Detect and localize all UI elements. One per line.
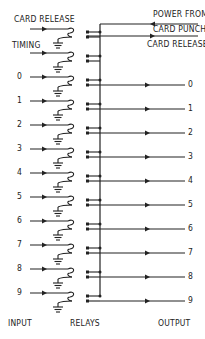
output-label-5: 5: [188, 199, 193, 209]
output-label-7: 7: [188, 247, 193, 257]
card-release-input-label: CARD RELEASE: [14, 14, 75, 24]
output-label-4: 4: [188, 175, 193, 185]
card-release-output-label: CARD RELEASE: [147, 39, 205, 49]
input-label-4: 4: [17, 167, 22, 177]
footer-output-label: OUTPUT: [158, 318, 190, 328]
input-label-0: 0: [17, 71, 22, 81]
input-label-9: 9: [17, 287, 22, 297]
input-label-8: 8: [17, 263, 22, 273]
footer-input-label: INPUT: [8, 318, 32, 328]
input-label-7: 7: [17, 239, 22, 249]
input-label-2: 2: [17, 119, 22, 129]
input-label-6: 6: [17, 215, 22, 225]
timing-input-label: TIMING: [12, 40, 41, 50]
card-punch-label: CARD PUNCH: [153, 24, 205, 34]
input-label-5: 5: [17, 191, 22, 201]
output-label-8: 8: [188, 271, 193, 281]
output-label-6: 6: [188, 223, 193, 233]
footer-relays-label: RELAYS: [70, 318, 100, 328]
input-label-1: 1: [17, 95, 22, 105]
input-label-3: 3: [17, 143, 22, 153]
output-label-2: 2: [188, 127, 193, 137]
output-label-9: 9: [188, 295, 193, 305]
output-label-3: 3: [188, 151, 193, 161]
output-label-0: 0: [188, 79, 193, 89]
relay-diagram: [0, 0, 205, 339]
output-label-1: 1: [188, 103, 193, 113]
power-from-label: POWER FROM: [153, 9, 205, 19]
